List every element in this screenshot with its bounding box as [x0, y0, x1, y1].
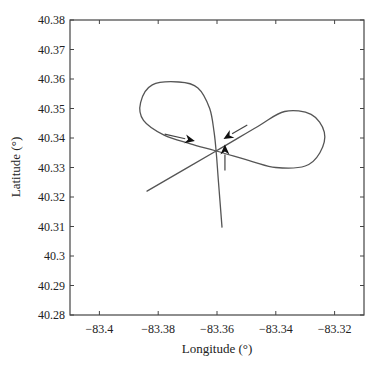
y-axis-label: Latitude (°): [8, 137, 23, 197]
y-tick-label: 40.29: [38, 279, 65, 293]
x-tick-label: −83.4: [86, 322, 114, 336]
y-tick-label: 40.32: [38, 190, 65, 204]
y-tick-label: 40.3: [44, 249, 65, 263]
y-tick-label: 40.35: [38, 102, 65, 116]
arrow-down-left-icon: [224, 130, 235, 139]
x-tick-label: −83.32: [318, 322, 352, 336]
y-tick-label: 40.37: [38, 43, 65, 57]
y-tick-label: 40.33: [38, 161, 65, 175]
y-tick-label: 40.36: [38, 72, 65, 86]
x-tick-label: −83.38: [141, 322, 175, 336]
y-tick-label: 40.34: [38, 131, 65, 145]
trajectory-line: [140, 82, 325, 227]
arrow-shaft: [232, 125, 247, 134]
y-tick-label: 40.31: [38, 220, 65, 234]
y-tick-label: 40.28: [38, 308, 65, 322]
x-axis-label: Longitude (°): [182, 341, 253, 356]
x-tick-label: −83.36: [200, 322, 234, 336]
trajectory-chart: 40.2840.2940.340.3140.3240.3340.3440.354…: [0, 0, 384, 365]
y-axis-ticks: 40.2840.2940.340.3140.3240.3340.3440.354…: [38, 13, 364, 322]
y-tick-label: 40.38: [38, 13, 65, 27]
arrow-right-icon: [184, 134, 195, 143]
x-tick-label: −83.34: [259, 322, 293, 336]
